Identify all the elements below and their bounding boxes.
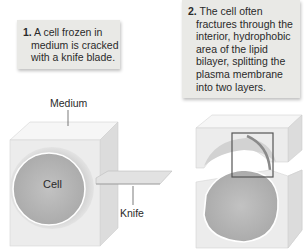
- step-2-text-2: fractures through the: [188, 18, 300, 31]
- step-1-number: 1.: [23, 26, 32, 38]
- step-2-text-3: interior, hydrophobic: [188, 30, 300, 43]
- step-1-callout: 1. A cell frozen in medium is cracked wi…: [17, 20, 120, 69]
- step-2-text-7: into two layers.: [188, 81, 300, 94]
- right-cube-bottom-half: [196, 170, 302, 248]
- cell-label: Cell: [43, 178, 62, 190]
- step-2-text-5: bilayer, splitting the: [188, 55, 300, 68]
- step-2-number: 2.: [188, 5, 197, 17]
- step-1-text-3: with a knife blade.: [23, 51, 120, 64]
- step-2-line-1: 2. The cell often: [188, 5, 300, 18]
- medium-label: Medium: [50, 97, 87, 109]
- knife-label: Knife: [120, 207, 144, 219]
- step-2-text-1: The cell often: [200, 5, 263, 17]
- step-2-callout: 2. The cell often fractures through the …: [182, 0, 300, 98]
- step-2-text-6: plasma membrane: [188, 68, 300, 81]
- step-2-text-4: area of the lipid: [188, 43, 300, 56]
- step-1-text-1: A cell frozen in: [34, 26, 102, 38]
- step-1-line-1: 1. A cell frozen in: [23, 26, 120, 39]
- step-1-text-2: medium is cracked: [23, 39, 120, 52]
- right-cube-top-half: [196, 115, 302, 170]
